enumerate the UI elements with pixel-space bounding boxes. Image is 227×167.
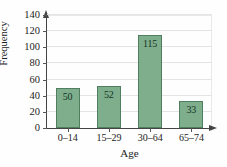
y-axis-tick-label: 40 [30,91,41,102]
bar: 52 [97,86,121,128]
x-axis-tick-label: 65–74 [179,133,204,143]
y-axis-tick-label: 60 [30,75,41,86]
x-axis-tick-label: 0–14 [58,133,78,143]
bar-value-label: 115 [139,38,161,49]
frequency-bar-chart: 020406080100120140 505211533 0–1415–2930… [0,0,227,167]
bar-series: 505211533 [47,15,212,128]
y-axis-tick-label: 0 [35,123,40,134]
x-axis-line [46,128,210,129]
y-axis-tick-label: 140 [24,10,40,21]
bar-value-label: 33 [180,104,202,115]
y-axis-tick-label: 20 [30,107,41,118]
x-axis-title: Age [47,147,212,159]
x-axis-tick-label: 30–64 [138,133,163,143]
y-axis-tick-label: 80 [30,58,41,69]
y-axis-title: Frequency [0,0,9,99]
bar-value-label: 50 [57,91,79,102]
y-axis-tick [43,128,47,129]
y-axis-tick-label: 100 [24,42,40,53]
bar: 33 [179,101,203,128]
bar-value-label: 52 [98,89,120,100]
y-axis-tick-label: 120 [24,26,40,37]
bar: 115 [138,35,162,128]
bar: 50 [56,88,80,128]
x-axis-tick-label: 15–29 [96,133,121,143]
